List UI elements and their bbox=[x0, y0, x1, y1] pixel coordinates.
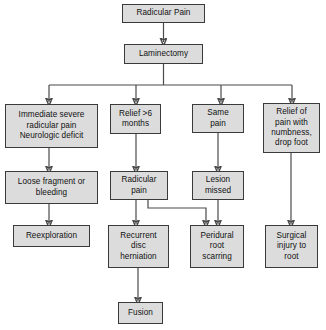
node-radicular-pain-2-label: Radicular pain bbox=[113, 175, 165, 196]
node-fusion-label: Fusion bbox=[121, 308, 160, 318]
node-same-pain[interactable]: Same pain bbox=[192, 104, 244, 133]
node-peridural-root-scarring[interactable]: Peridural root scarring bbox=[190, 225, 244, 268]
node-radicular-pain[interactable]: Radicular Pain bbox=[122, 4, 205, 23]
node-fusion[interactable]: Fusion bbox=[118, 302, 163, 324]
node-relief-pain-numbness-drop-foot[interactable]: Relief of pain with numbness, drop foot bbox=[263, 103, 320, 153]
node-radicular-pain-label: Radicular Pain bbox=[125, 8, 202, 18]
node-loose-fragment-label: Loose fragment or bleeding bbox=[8, 177, 95, 198]
node-lesion-missed-label: Lesion missed bbox=[195, 175, 241, 196]
node-immediate-severe-radicular-pain[interactable]: Immediate severe radicular pain Neurolog… bbox=[5, 104, 98, 148]
node-same-pain-label: Same pain bbox=[195, 108, 241, 129]
node-surgical-injury-label: Surgical injury to root bbox=[268, 231, 315, 262]
node-recurrent-disc-herniation[interactable]: Recurrent disc herniation bbox=[108, 225, 169, 268]
node-relief-numbness-label: Relief of pain with numbness, drop foot bbox=[266, 107, 317, 149]
node-surgical-injury-to-root[interactable]: Surgical injury to root bbox=[265, 225, 318, 268]
node-laminectomy[interactable]: Laminectomy bbox=[124, 44, 203, 64]
node-lesion-missed[interactable]: Lesion missed bbox=[192, 171, 244, 200]
node-reexploration[interactable]: Reexploration bbox=[13, 225, 90, 247]
node-laminectomy-label: Laminectomy bbox=[127, 49, 200, 59]
node-radicular-pain-secondary[interactable]: Radicular pain bbox=[110, 171, 168, 200]
node-immediate-severe-label: Immediate severe radicular pain Neurolog… bbox=[8, 110, 95, 141]
edge-radicular-pain-to-peridural bbox=[148, 200, 206, 224]
node-relief-6-months-label: Relief >6 months bbox=[113, 109, 158, 130]
node-loose-fragment-or-bleeding[interactable]: Loose fragment or bleeding bbox=[5, 171, 98, 204]
flowchart-diagram: Radicular Pain Laminectomy Immediate sev… bbox=[0, 0, 326, 330]
node-reexploration-label: Reexploration bbox=[16, 231, 87, 241]
node-recurrent-disc-label: Recurrent disc herniation bbox=[111, 231, 166, 262]
node-peridural-scarring-label: Peridural root scarring bbox=[193, 231, 241, 262]
node-relief-over-6-months[interactable]: Relief >6 months bbox=[110, 104, 161, 134]
